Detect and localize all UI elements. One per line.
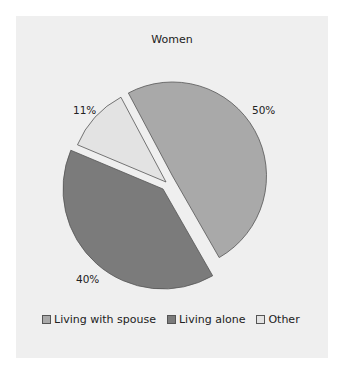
legend-swatch [167, 315, 176, 324]
legend-item-other: Other [256, 313, 299, 326]
label-living-alone: 40% [76, 273, 99, 285]
legend-label: Living alone [179, 313, 245, 326]
legend-label: Other [268, 313, 299, 326]
legend-swatch [256, 315, 265, 324]
label-living-with-spouse: 50% [252, 104, 275, 116]
label-other: 11% [73, 104, 96, 116]
legend-swatch [42, 315, 51, 324]
legend-label: Living with spouse [54, 313, 156, 326]
legend: Living with spouse Living alone Other [42, 313, 311, 326]
legend-item-living-with-spouse: Living with spouse [42, 313, 156, 326]
legend-item-living-alone: Living alone [167, 313, 245, 326]
